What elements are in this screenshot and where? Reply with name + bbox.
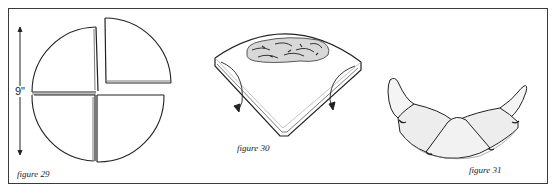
- quarter-lower-right: [97, 95, 164, 162]
- figure-30-drawing: [215, 34, 361, 136]
- quarter-upper-right: [105, 18, 171, 83]
- quarter-upper-left: [32, 27, 98, 94]
- figure-29-drawing: [18, 18, 171, 162]
- filling-texture: [247, 38, 329, 63]
- figure-31-caption: figure 31: [469, 165, 501, 175]
- figure-31-drawing: [388, 78, 527, 158]
- quarter-lower-left: [32, 95, 95, 161]
- figure-30-caption: figure 30: [237, 143, 269, 153]
- figure-29-caption: figure 29: [17, 169, 49, 179]
- fold-arrow-right-icon: [329, 66, 355, 110]
- dimension-label: 9": [15, 86, 25, 97]
